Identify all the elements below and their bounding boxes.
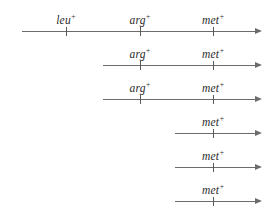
gene-marker-label: met+ — [202, 48, 224, 60]
gene-marker-tick — [213, 129, 214, 138]
transfer-arrow-line — [22, 31, 255, 32]
gene-marker-tick — [213, 27, 214, 36]
gene-charge-superscript: + — [220, 114, 224, 123]
gene-marker-tick — [140, 61, 141, 70]
gene-marker-tick — [213, 163, 214, 172]
gene-marker-tick — [66, 27, 67, 36]
chromosome-row: leu+arg+met+ — [0, 14, 277, 48]
gene-marker-tick — [140, 27, 141, 36]
transfer-arrow-line — [103, 99, 255, 100]
genetic-map-figure: leu+arg+met+arg+met+arg+met+met+met+met+ — [0, 0, 277, 221]
gene-marker-label: met+ — [202, 184, 224, 196]
gene-marker-label: leu+ — [56, 14, 76, 26]
arrowhead-icon — [255, 28, 262, 34]
gene-marker-tick — [140, 95, 141, 104]
gene-marker-label: met+ — [202, 14, 224, 26]
gene-marker-label: arg+ — [129, 48, 150, 60]
gene-marker-label: met+ — [202, 82, 224, 94]
gene-charge-superscript: + — [220, 148, 224, 157]
gene-charge-superscript: + — [71, 12, 75, 21]
gene-charge-superscript: + — [220, 46, 224, 55]
arrowhead-icon — [255, 96, 262, 102]
gene-marker-tick — [213, 95, 214, 104]
gene-marker-label: arg+ — [129, 82, 150, 94]
transfer-arrow-line — [175, 167, 255, 168]
chromosome-row: met+ — [0, 184, 277, 218]
gene-marker-tick — [213, 61, 214, 70]
chromosome-row: met+ — [0, 150, 277, 184]
arrowhead-icon — [255, 62, 262, 68]
transfer-arrow-line — [175, 201, 255, 202]
gene-marker-label: arg+ — [129, 14, 150, 26]
chromosome-row: met+ — [0, 116, 277, 150]
gene-marker-label: met+ — [202, 150, 224, 162]
transfer-arrow-line — [103, 65, 255, 66]
gene-charge-superscript: + — [146, 46, 150, 55]
chromosome-row: arg+met+ — [0, 82, 277, 116]
gene-charge-superscript: + — [220, 80, 224, 89]
gene-charge-superscript: + — [146, 12, 150, 21]
arrowhead-icon — [255, 198, 262, 204]
gene-marker-tick — [213, 197, 214, 206]
gene-charge-superscript: + — [220, 182, 224, 191]
arrowhead-icon — [255, 130, 262, 136]
chromosome-row: arg+met+ — [0, 48, 277, 82]
gene-charge-superscript: + — [220, 12, 224, 21]
arrowhead-icon — [255, 164, 262, 170]
gene-charge-superscript: + — [146, 80, 150, 89]
transfer-arrow-line — [175, 133, 255, 134]
gene-marker-label: met+ — [202, 116, 224, 128]
